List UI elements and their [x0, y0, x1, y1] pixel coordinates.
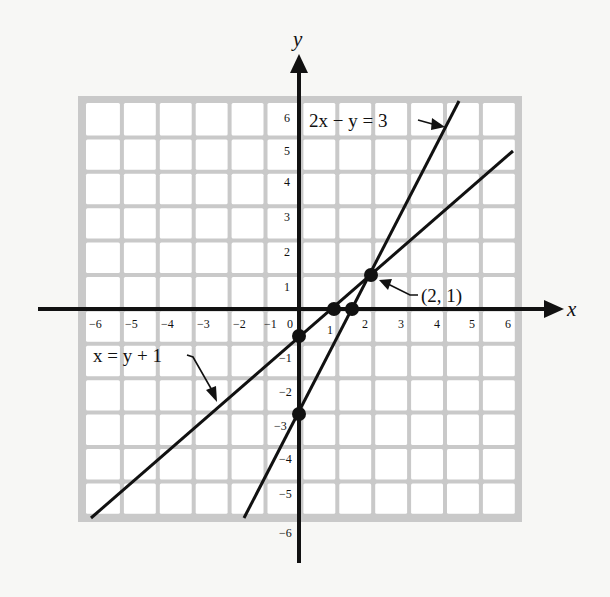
grid-cell	[232, 449, 264, 479]
grid-cell	[160, 243, 192, 273]
grid-cell	[483, 483, 515, 513]
x-tick: −5	[125, 317, 138, 331]
grid-cell	[86, 415, 120, 445]
grid-cell	[303, 243, 335, 273]
grid-cell	[447, 139, 479, 169]
grid-cell	[339, 483, 371, 513]
grid-cell	[483, 380, 515, 410]
grid-cell	[483, 449, 515, 479]
grid-cell	[160, 346, 192, 376]
y-tick: −4	[279, 452, 292, 466]
grid-cell	[303, 139, 335, 169]
grid-cell	[411, 103, 443, 135]
grid-cell	[160, 139, 192, 169]
grid-cell	[483, 346, 515, 376]
grid-cell	[232, 380, 264, 410]
grid-cell	[303, 415, 335, 445]
grid-cell	[124, 139, 156, 169]
y-tick: 5	[284, 144, 290, 158]
grid-cell	[447, 483, 479, 513]
grid-cell	[86, 103, 120, 135]
grid-cell	[196, 208, 228, 238]
grid-cell	[86, 139, 120, 169]
x-tick: −6	[89, 317, 102, 331]
grid-cell	[303, 449, 335, 479]
grid-cell	[232, 139, 264, 169]
grid-cell	[447, 449, 479, 479]
grid-cell	[232, 277, 264, 307]
grid-cell	[411, 174, 443, 204]
y-tick: −3	[274, 419, 287, 433]
grid-cell	[339, 208, 371, 238]
y-tick: 6	[284, 111, 290, 125]
grid-cell	[196, 277, 228, 307]
grid-cell	[124, 277, 156, 307]
grid-cell	[160, 415, 192, 445]
grid-cell	[196, 243, 228, 273]
grid-cell	[483, 415, 515, 445]
y-tick: −6	[279, 526, 292, 540]
grid-cell	[196, 483, 228, 513]
grid-cell	[411, 449, 443, 479]
x-tick: 1	[327, 323, 333, 337]
y-tick: 1	[284, 280, 290, 294]
point-2-1-intersection	[364, 268, 378, 282]
grid-cell	[447, 380, 479, 410]
y-tick: 2	[284, 245, 290, 259]
point-0-neg3	[292, 407, 306, 421]
grid-cell	[339, 174, 371, 204]
grid-cell	[160, 208, 192, 238]
grid-cell	[483, 243, 515, 273]
y-tick: 3	[284, 210, 290, 224]
grid-cell	[447, 208, 479, 238]
y-tick: −5	[279, 487, 292, 501]
grid-cell	[232, 208, 264, 238]
grid-cell	[196, 415, 228, 445]
grid-cell	[375, 277, 407, 307]
x-tick: −1	[264, 317, 277, 331]
x-axis-label: x	[566, 297, 577, 321]
point-1.5-0	[345, 302, 359, 316]
grid-cell	[196, 139, 228, 169]
grid-cell	[86, 174, 120, 204]
grid-cell	[232, 174, 264, 204]
grid-cell	[483, 103, 515, 135]
grid-cell	[483, 208, 515, 238]
grid-cell	[339, 415, 371, 445]
grid-cell	[160, 174, 192, 204]
grid-cell	[339, 346, 371, 376]
grid-cell	[160, 277, 192, 307]
grid-cell	[339, 449, 371, 479]
x-tick: −3	[197, 317, 210, 331]
grid-cell	[124, 103, 156, 135]
grid-cell	[411, 243, 443, 273]
x-tick: 4	[434, 317, 440, 331]
line1-label: 2x − y = 3	[309, 110, 387, 131]
coordinate-graph: x y −6 −5 −4 −3 −2 −1 0 1 2 3 4 5 6 6 5 …	[0, 0, 610, 597]
grid-cell	[411, 415, 443, 445]
x-axis-arrow-icon	[544, 300, 564, 318]
x-tick: 3	[398, 317, 404, 331]
grid-cell	[447, 243, 479, 273]
grid-cell	[303, 174, 335, 204]
grid-cell	[483, 174, 515, 204]
grid-cell	[375, 415, 407, 445]
y-tick: 4	[284, 175, 290, 189]
grid-cell	[303, 208, 335, 238]
grid-cell	[339, 139, 371, 169]
grid-cell	[411, 346, 443, 376]
grid-cell	[196, 449, 228, 479]
grid-cell	[447, 346, 479, 376]
grid-cell	[124, 174, 156, 204]
y-tick: −2	[279, 385, 292, 399]
x-tick: 6	[505, 317, 511, 331]
grid-cell	[303, 277, 335, 307]
point-1-0	[327, 302, 341, 316]
grid-cell	[86, 277, 120, 307]
grid-cell	[411, 483, 443, 513]
grid-cell	[232, 243, 264, 273]
x-tick: 5	[469, 317, 475, 331]
grid-cell	[232, 415, 264, 445]
grid-cell	[160, 380, 192, 410]
grid-cell	[303, 483, 335, 513]
